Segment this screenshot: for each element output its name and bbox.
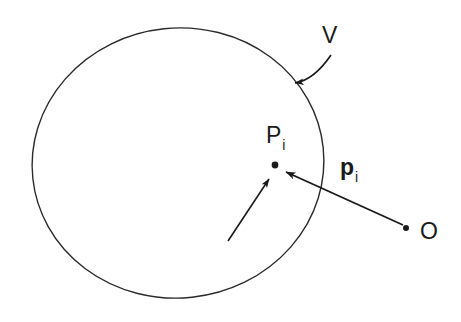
label-volume-base: V (322, 22, 337, 48)
diagram-vector-layer (0, 0, 461, 322)
label-origin: O (420, 220, 438, 243)
label-origin-base: O (420, 218, 438, 244)
label-volume: V (322, 24, 337, 47)
volume-leader-curve (295, 55, 331, 83)
label-vector-pi-base: p (340, 154, 354, 180)
region-boundary-curve (19, 13, 338, 312)
origin-marker (403, 225, 409, 231)
diagram-canvas: V Pi pi O (0, 0, 461, 322)
label-point-pi-base: P (266, 122, 281, 148)
point-marker-pi (272, 162, 279, 169)
label-vector-pi-subscript: i (355, 169, 358, 185)
label-point-pi: Pi (266, 124, 284, 147)
label-vector-pi: pi (340, 156, 357, 179)
point-pointer-arrow (228, 179, 269, 241)
